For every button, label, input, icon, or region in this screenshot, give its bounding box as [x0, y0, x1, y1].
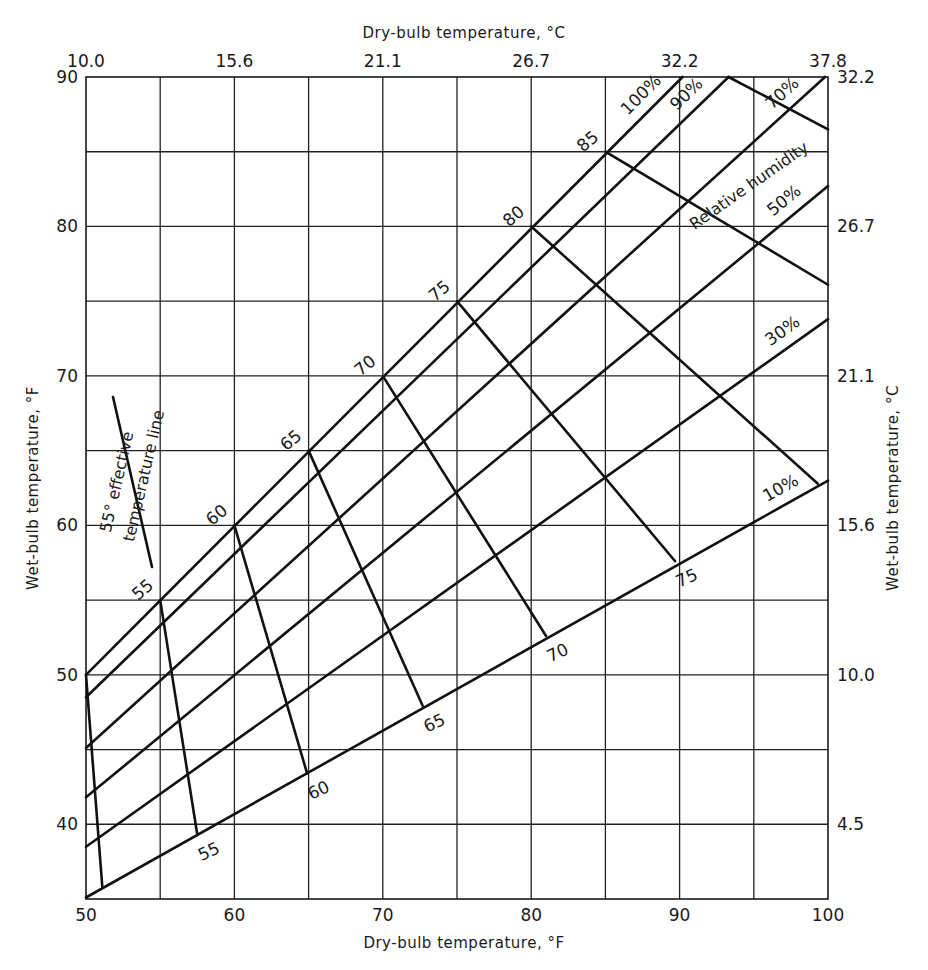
rh-label: 30%	[761, 311, 803, 349]
x-tick-label: 80	[520, 905, 542, 925]
y-tick-label: 80	[56, 216, 78, 236]
rh-label: 10%	[759, 470, 802, 506]
x-tick-label: 50	[75, 905, 97, 925]
et-line-60	[234, 525, 307, 773]
y-tick-label: 50	[56, 665, 78, 685]
x2-tick-label: 15.6	[215, 51, 253, 71]
right-axis-title: Wet-bulb temperature, °C	[884, 385, 902, 591]
et-line-80	[531, 226, 817, 483]
rh-label: 90%	[666, 74, 707, 115]
y2-tick-label: 26.7	[837, 216, 875, 236]
et-label-bottom: 65	[420, 709, 448, 736]
x-tick-label: 100	[812, 905, 844, 925]
top-axis-title: Dry-bulb temperature, °C	[362, 24, 565, 42]
y2-tick-label: 4.5	[837, 814, 864, 834]
y-tick-label: 40	[56, 814, 78, 834]
et-line-70	[383, 376, 546, 636]
et-label-bottom: 55	[195, 838, 223, 865]
rh-label: 50%	[763, 180, 805, 219]
et-label-bottom: 70	[543, 639, 571, 666]
y-tick-label: 60	[56, 515, 78, 535]
x-tick-label: 90	[669, 905, 691, 925]
y2-tick-label: 15.6	[837, 515, 875, 535]
et-line-50	[86, 675, 102, 887]
x-tick-label: 70	[372, 905, 394, 925]
effective-temperature-chart: 100%90%70%50%30%10%556065707580855560657…	[0, 0, 928, 970]
et-line-65	[309, 451, 423, 707]
x2-tick-label: 32.2	[661, 51, 699, 71]
y2-tick-label: 21.1	[837, 366, 875, 386]
x2-tick-label: 21.1	[364, 51, 402, 71]
x2-tick-label: 26.7	[512, 51, 550, 71]
rh-line-90	[86, 77, 729, 697]
x-tick-label: 60	[224, 905, 246, 925]
bottom-axis-title: Dry-bulb temperature, °F	[363, 934, 564, 952]
left-axis-title: Wet-bulb temperature, °F	[24, 386, 42, 590]
et-line-55	[160, 600, 197, 835]
y-tick-label: 70	[56, 366, 78, 386]
x2-tick-label: 10.0	[67, 51, 105, 71]
et-label-bottom: 75	[673, 564, 701, 591]
rh-line-70	[86, 77, 825, 748]
rh-label: 70%	[761, 73, 802, 113]
y2-tick-label: 10.0	[837, 665, 875, 685]
y2-tick-label: 32.2	[837, 67, 875, 87]
